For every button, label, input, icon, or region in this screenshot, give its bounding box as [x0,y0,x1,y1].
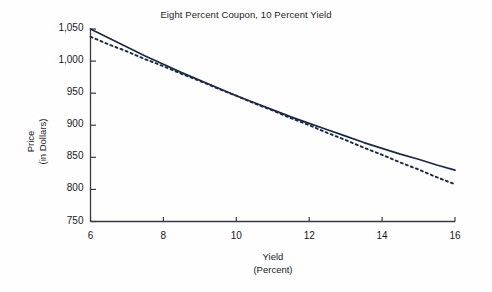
x-axis-label-line2: (Percent) [253,264,292,275]
y-tick-label: 1,000 [38,54,84,65]
x-axis-label: Yield (Percent) [90,250,456,276]
y-tick-label: 1,050 [38,22,84,33]
y-axis-label-line2: (in Dollars) [37,118,48,164]
y-axis-label: Price (in Dollars) [0,104,82,178]
x-tick-label: 16 [440,230,470,241]
x-tick-label: 14 [367,230,397,241]
x-tick-label: 8 [148,230,178,241]
x-tick-label: 12 [294,230,324,241]
series-group [91,29,456,184]
y-tick-label: 950 [38,86,84,97]
x-tick-label: 6 [76,230,106,241]
axes-group [91,29,456,222]
series-duration-approximation [91,37,456,185]
y-tick-label: 800 [38,182,84,193]
x-tick-label: 10 [221,230,251,241]
x-axis-label-line1: Yield [263,251,284,262]
y-axis-label-line1: Price [26,130,37,152]
series-price-yield-curve [91,29,456,170]
y-tick-label: 750 [38,215,84,226]
chart-page: Eight Percent Coupon, 10 Percent Yield 7… [0,0,492,292]
